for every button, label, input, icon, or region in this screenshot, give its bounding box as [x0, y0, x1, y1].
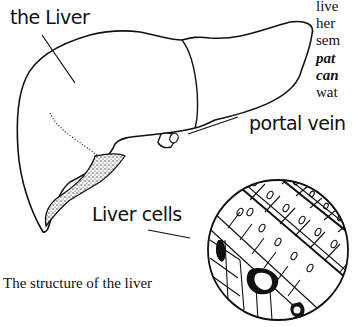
text-fragment-emphasis: pat — [316, 50, 353, 67]
figure-caption: The structure of the liver — [3, 275, 152, 292]
text-fragment-emphasis: can — [316, 67, 353, 84]
liver-cells-label: Liver cells — [92, 205, 182, 224]
liver-cells-leader-line — [148, 230, 190, 238]
lobe-divider — [182, 40, 198, 128]
fissure-dotted-line — [50, 113, 97, 155]
liver-label: the Liver — [10, 8, 89, 27]
text-fragment: her — [316, 15, 353, 32]
text-fragment: wat — [316, 84, 353, 101]
liver-cells-magnified — [200, 150, 353, 327]
portal-vein-label: portal vein — [249, 114, 346, 133]
text-fragment: live — [316, 0, 353, 15]
clipped-body-text: live her sem pat can wat — [316, 0, 353, 101]
text-fragment: sem — [316, 32, 353, 49]
liver-structure-figure: the Liver portal vein Liver cells The st… — [0, 0, 353, 327]
portal-vein-stub — [158, 132, 180, 148]
